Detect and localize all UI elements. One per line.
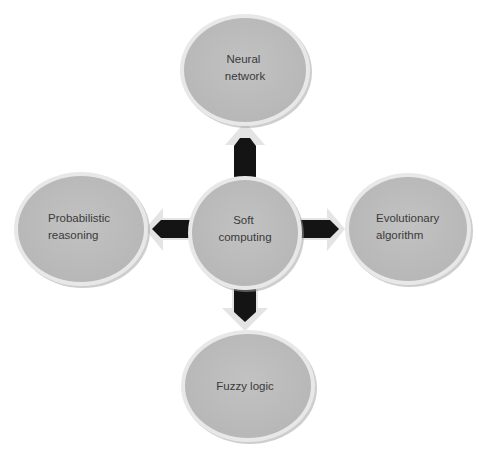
node-label-line: Evolutionary <box>376 212 440 224</box>
node-evolutionary-algorithm: Evolutionary algorithm <box>345 173 473 287</box>
node-fuzzy-logic: Fuzzy logic <box>181 330 317 444</box>
node-label-line: Neural <box>226 53 260 65</box>
node-label-line: network <box>225 70 266 82</box>
node-neural-network: Neural network <box>180 14 312 128</box>
node-label: Fuzzy logic <box>216 380 274 392</box>
node-label-line: reasoning <box>48 229 99 241</box>
node-probabilistic-reasoning: Probabilistic reasoning <box>14 172 150 288</box>
node-label-line: computing <box>218 231 271 243</box>
arrow-left <box>145 208 195 251</box>
arrow-up-inner <box>234 138 256 177</box>
node-label-line: algorithm <box>376 229 423 241</box>
arrow-up <box>225 122 265 178</box>
node-soft-computing: Soft computing <box>188 176 304 292</box>
node-label-line: Probabilistic <box>48 212 110 224</box>
node-label-line: Fuzzy logic <box>216 380 274 392</box>
soft-computing-diagram: Neural network Probabilistic reasoning E… <box>0 0 479 458</box>
node-label-line: Soft <box>233 214 254 226</box>
